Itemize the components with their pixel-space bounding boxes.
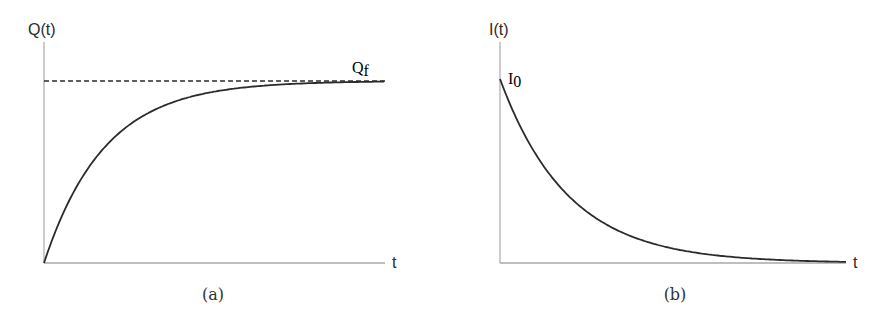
figure: Q(t) t Qf (a) I(t) t I0 (b) <box>0 0 881 326</box>
panel-b: I(t) t I0 (b) <box>489 21 858 304</box>
panel-a-caption: (a) <box>202 285 224 304</box>
panel-b-x-label: t <box>853 254 858 271</box>
panel-b-current-curve <box>500 79 846 262</box>
panel-b-initial-label: I0 <box>508 70 521 90</box>
panel-b-initial-sub: 0 <box>513 73 521 90</box>
panel-a-asymptote-main: Q <box>352 59 364 76</box>
panel-a-y-label: Q(t) <box>28 21 56 38</box>
panel-b-y-label: I(t) <box>489 21 509 38</box>
panel-a-asymptote-label: Qf <box>352 59 370 79</box>
panel-a-charge-curve <box>44 82 384 263</box>
panel-a-asymptote-sub: f <box>364 62 370 79</box>
panel-b-caption: (b) <box>664 285 687 304</box>
panel-a-x-label: t <box>392 254 397 271</box>
panel-a: Q(t) t Qf (a) <box>28 21 397 304</box>
